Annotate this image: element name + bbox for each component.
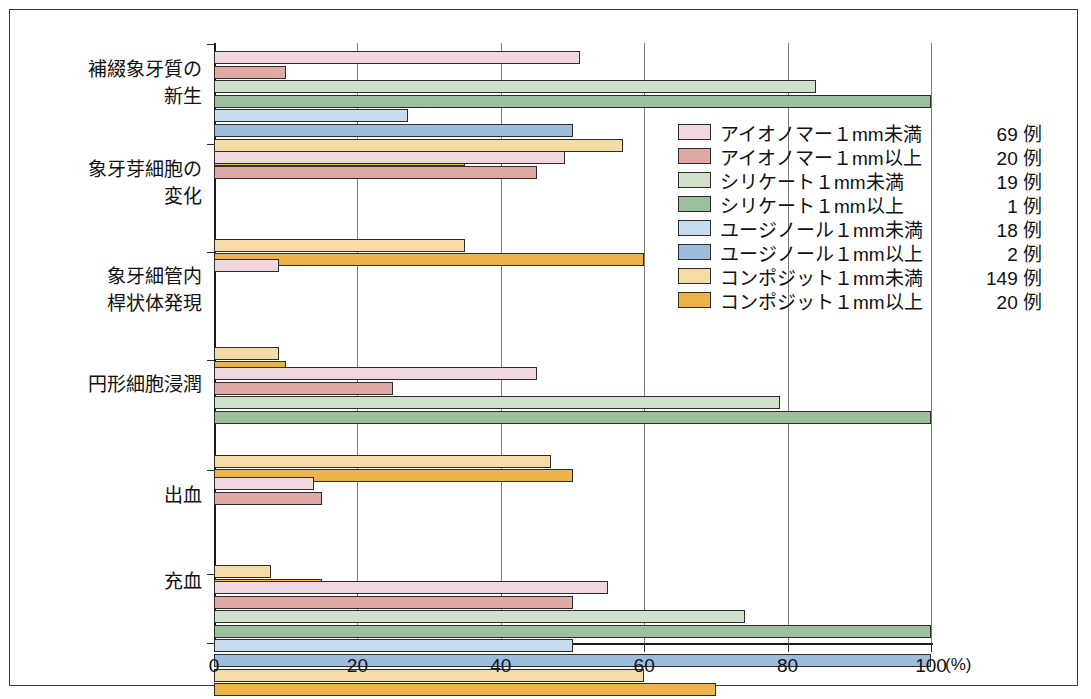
x-tick-60: [644, 643, 645, 652]
y-tick-3: [207, 360, 214, 361]
legend-swatch-icon: [678, 148, 711, 164]
legend-item: アイオノマー１mm未満69 例: [678, 120, 1042, 144]
legend-swatch-icon: [678, 124, 711, 140]
bar: [214, 66, 286, 79]
legend-item: シリケート１mm未満19 例: [678, 168, 1042, 192]
x-tick-80: [788, 643, 789, 652]
legend-item: シリケート１mm以上1 例: [678, 192, 1042, 216]
bar: [214, 492, 322, 505]
legend-count: 1 例: [970, 191, 1042, 218]
bar: [214, 382, 393, 395]
x-tick-label-0: 0: [209, 655, 220, 677]
legend-swatch-icon: [678, 292, 711, 308]
legend-label: ユージノール１mm以上: [720, 239, 970, 266]
legend-swatch-icon: [678, 196, 711, 212]
legend-item: ユージノール１mm未満18 例: [678, 216, 1042, 240]
legend-count: 19 例: [970, 167, 1042, 194]
y-tick-0: [207, 44, 214, 45]
legend-label: シリケート１mm以上: [720, 191, 970, 218]
chart-frame: 補綴象牙質の 新生 象牙芽細胞の 変化 象牙細管内 桿状体発現 円形細胞浸潤 出…: [9, 9, 1078, 686]
bar: [214, 683, 716, 696]
x-tick-100: [931, 643, 932, 652]
category-label-1: 象牙芽細胞の 変化: [32, 156, 202, 210]
y-tick-2: [207, 252, 214, 253]
bar: [214, 581, 608, 594]
legend-label: アイオノマー１mm未満: [720, 119, 970, 146]
legend-swatch-icon: [678, 244, 711, 260]
gridline-60: [644, 43, 645, 643]
x-tick-label-20: 20: [347, 655, 368, 677]
bar: [214, 455, 551, 468]
category-label-2: 象牙細管内 桿状体発現: [32, 263, 202, 317]
legend-label: アイオノマー１mm以上: [720, 143, 970, 170]
bar: [214, 477, 314, 490]
bar: [214, 139, 623, 152]
bar: [214, 669, 644, 682]
y-tick-4: [207, 470, 214, 471]
category-label-0: 補綴象牙質の 新生: [32, 56, 202, 110]
bar: [214, 259, 279, 272]
bar: [214, 151, 565, 164]
legend-label: コンポジット１mm以上: [720, 287, 970, 314]
bar: [214, 347, 279, 360]
y-tick-1: [207, 144, 214, 145]
legend-swatch-icon: [678, 268, 711, 284]
legend-swatch-icon: [678, 172, 711, 188]
bar: [214, 124, 573, 137]
legend-count: 18 例: [970, 215, 1042, 242]
bar: [214, 80, 816, 93]
x-axis-unit-label: (%): [945, 655, 971, 675]
bar: [214, 625, 931, 638]
x-tick-label-60: 60: [634, 655, 655, 677]
legend-item: コンポジット１mm未満149 例: [678, 264, 1042, 288]
legend-item: コンポジット１mm以上20 例: [678, 288, 1042, 312]
legend-count: 149 例: [970, 263, 1042, 290]
legend-count: 20 例: [970, 143, 1042, 170]
y-tick-end: [207, 643, 214, 644]
bar: [214, 95, 931, 108]
y-tick-5: [207, 574, 214, 575]
x-tick-label-100: 100: [915, 655, 947, 677]
legend: アイオノマー１mm未満69 例アイオノマー１mm以上20 例シリケート１mm未満…: [678, 120, 1042, 312]
x-tick-label-80: 80: [777, 655, 798, 677]
bar: [214, 639, 573, 652]
bar: [214, 396, 780, 409]
bar: [214, 166, 537, 179]
bar: [214, 51, 580, 64]
bar: [214, 654, 931, 667]
bar: [214, 109, 408, 122]
bar: [214, 239, 465, 252]
category-label-5: 充血: [32, 568, 202, 595]
legend-label: コンポジット１mm未満: [720, 263, 970, 290]
bar: [214, 596, 573, 609]
bar: [214, 253, 644, 266]
legend-count: 2 例: [970, 239, 1042, 266]
bar: [214, 411, 931, 424]
legend-count: 69 例: [970, 119, 1042, 146]
legend-label: ユージノール１mm未満: [720, 215, 970, 242]
bar: [214, 565, 271, 578]
legend-swatch-icon: [678, 220, 711, 236]
x-tick-label-40: 40: [490, 655, 511, 677]
legend-item: アイオノマー１mm以上20 例: [678, 144, 1042, 168]
legend-label: シリケート１mm未満: [720, 167, 970, 194]
bar: [214, 610, 745, 623]
category-label-4: 出血: [32, 482, 202, 509]
bar: [214, 367, 537, 380]
legend-count: 20 例: [970, 287, 1042, 314]
legend-item: ユージノール１mm以上2 例: [678, 240, 1042, 264]
category-label-3: 円形細胞浸潤: [32, 371, 202, 398]
